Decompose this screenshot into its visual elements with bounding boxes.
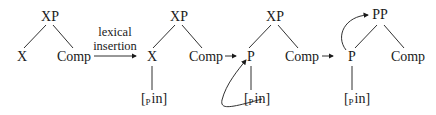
label-line-1: lexical — [98, 25, 131, 39]
curved-arrow-raise — [342, 15, 368, 50]
node-complement: Comp — [57, 50, 91, 64]
label-line-2: insertion — [93, 39, 137, 53]
syntax-derivation-diagram: XP X Comp lexical insertion XP X Comp [P… — [0, 0, 436, 115]
category-subscript: P — [349, 97, 354, 107]
node-complement: Comp — [189, 50, 223, 64]
node-head: X — [17, 50, 27, 64]
lexical-word: in] — [255, 91, 271, 106]
node-root: XP — [41, 10, 59, 24]
category-subscript: P — [146, 97, 151, 107]
branch-left — [24, 25, 46, 48]
lexical-item: [Pin] — [344, 92, 370, 106]
transition-label: lexical insertion — [93, 25, 137, 53]
lexical-word: in] — [355, 91, 371, 106]
bracket-open: [ — [344, 91, 349, 106]
node-head: X — [147, 50, 157, 64]
node-complement: Comp — [285, 50, 319, 64]
bracket-open: [ — [244, 91, 249, 106]
branch-right — [53, 25, 73, 48]
lexical-word: in] — [152, 91, 168, 106]
lexical-item: [Pin] — [141, 92, 167, 106]
node-head: P — [247, 50, 255, 64]
node-head: P — [348, 50, 356, 64]
lexical-item: [Pin] — [244, 92, 270, 106]
node-root: XP — [170, 10, 188, 24]
category-subscript: P — [249, 97, 254, 107]
node-root: PP — [372, 8, 388, 22]
node-root: XP — [266, 10, 284, 24]
node-complement: Comp — [391, 50, 425, 64]
bracket-open: [ — [141, 91, 146, 106]
